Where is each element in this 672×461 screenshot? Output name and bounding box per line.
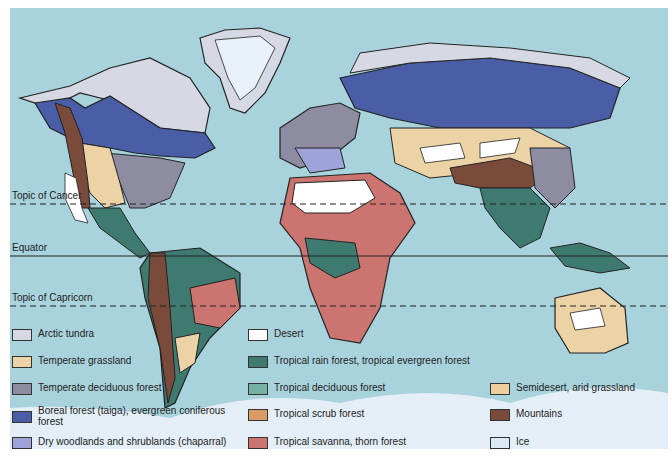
legend-item-tropical-deciduous-forest: Tropical deciduous forest: [248, 382, 488, 395]
swatch-temperate-grassland: [12, 356, 32, 368]
legend-item-ice: Ice: [490, 436, 665, 449]
legend-item-boreal-forest: Boreal forest (taiga), evergreen conifer…: [12, 405, 242, 427]
world-biome-map: Topic of Cancer Equator Topic of Caprico…: [10, 8, 668, 449]
legend-item-semidesert: Semidesert, arid grassland: [490, 382, 665, 395]
legend-item-arctic-tundra: Arctic tundra: [12, 328, 252, 341]
swatch-desert: [248, 329, 268, 341]
swatch-mountains: [490, 409, 510, 421]
swatch-boreal-forest: [12, 411, 32, 423]
swatch-tropical-scrub-forest: [248, 409, 268, 421]
tropic-of-cancer-label: Topic of Cancer: [12, 190, 81, 201]
legend-item-temperate-grassland: Temperate grassland: [12, 355, 252, 368]
legend-item-tropical-savanna: Tropical savanna, thorn forest: [248, 436, 488, 449]
legend-item-tropical-rain-forest: Tropical rain forest, tropical evergreen…: [248, 355, 508, 368]
swatch-ice: [490, 437, 510, 449]
swatch-semidesert: [490, 383, 510, 395]
equator-label: Equator: [12, 242, 47, 253]
swatch-tropical-savanna: [248, 437, 268, 449]
legend-item-temperate-deciduous-forest: Temperate deciduous forest: [12, 382, 252, 395]
swatch-tropical-rain-forest: [248, 356, 268, 368]
legend-item-desert: Desert: [248, 328, 488, 341]
swatch-tropical-deciduous-forest: [248, 383, 268, 395]
tropic-of-capricorn-label: Topic of Capricorn: [12, 292, 93, 303]
swatch-temperate-deciduous-forest: [12, 383, 32, 395]
swatch-arctic-tundra: [12, 329, 32, 341]
legend-item-mountains: Mountains: [490, 408, 665, 421]
legend-item-chaparral: Dry woodlands and shrublands (chaparral): [12, 436, 252, 449]
legend-item-tropical-scrub-forest: Tropical scrub forest: [248, 408, 488, 421]
swatch-chaparral: [12, 437, 32, 449]
